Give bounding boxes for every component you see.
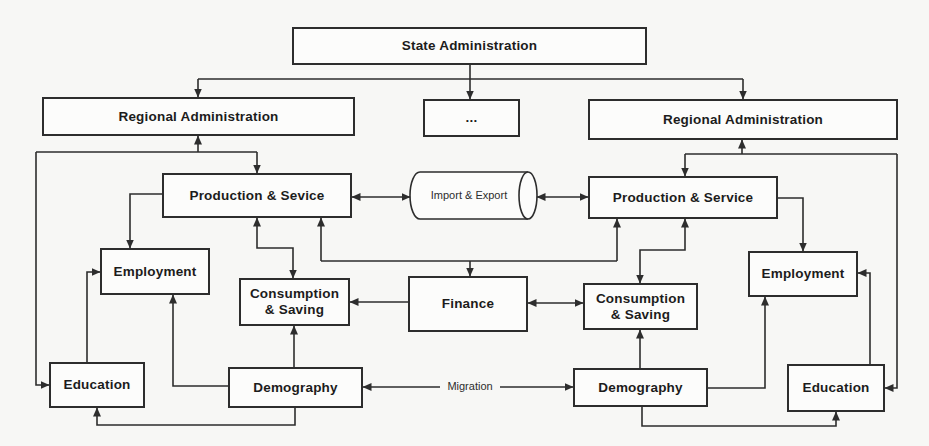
node-regional-administration-left: Regional Administration bbox=[42, 97, 355, 136]
edge-label-migration: Migration bbox=[433, 381, 507, 392]
node-import-export-label: Import & Export bbox=[410, 190, 528, 201]
node-state-administration: State Administration bbox=[292, 27, 647, 65]
node-consumption-saving-left: Consumption & Saving bbox=[239, 278, 350, 326]
diagram-canvas: State Administration Regional Administra… bbox=[0, 0, 929, 446]
node-production-service-right: Production & Service bbox=[588, 176, 778, 219]
node-education-right: Education bbox=[787, 364, 885, 412]
node-ellipsis: ... bbox=[423, 99, 520, 137]
node-consumption-saving-right: Consumption & Saving bbox=[583, 283, 698, 330]
node-demography-right: Demography bbox=[573, 368, 708, 407]
node-demography-left: Demography bbox=[228, 367, 363, 408]
node-production-service-left: Production & Sevice bbox=[162, 173, 352, 218]
node-regional-administration-right: Regional Administration bbox=[588, 99, 898, 140]
node-employment-left: Employment bbox=[100, 248, 210, 295]
node-education-left: Education bbox=[49, 362, 145, 408]
node-finance: Finance bbox=[408, 276, 528, 332]
node-employment-right: Employment bbox=[748, 251, 858, 297]
